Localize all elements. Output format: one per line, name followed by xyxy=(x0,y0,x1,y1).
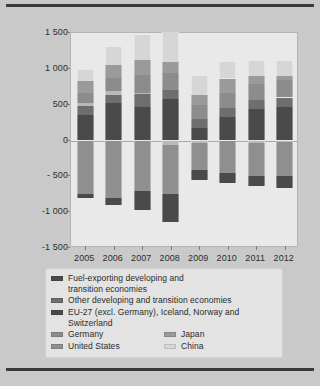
bar-column xyxy=(162,33,179,246)
x-axis-tick-label: 2006 xyxy=(103,253,123,263)
bar-segment xyxy=(134,35,151,60)
bar-segment xyxy=(191,128,208,141)
bar-segment xyxy=(105,198,122,205)
bar-segment xyxy=(162,145,179,194)
bar-segment xyxy=(248,61,265,75)
bar-segment xyxy=(276,107,293,141)
y-axis-tick-label: 1 000 xyxy=(12,63,68,73)
bar-segment xyxy=(134,107,151,141)
bar-segment xyxy=(162,73,179,89)
bar-segment xyxy=(105,78,122,91)
x-axis-tick-label: 2009 xyxy=(188,253,208,263)
x-axis-tick-label: 2005 xyxy=(74,253,94,263)
legend-label-line1: EU-27 (excl. Germany), Iceland, Norway a… xyxy=(68,307,239,317)
bar-segment xyxy=(162,62,179,73)
bar-segment xyxy=(248,109,265,141)
bar-segment xyxy=(105,47,122,65)
legend-item-united-states: United States xyxy=(51,341,164,352)
chart-plot-wrapper: 1 5001 0005000- 500-1 000-1 500 20052006… xyxy=(12,14,308,264)
bar-column xyxy=(276,33,293,246)
x-axis-tick-label: 2012 xyxy=(274,253,294,263)
bar-segment xyxy=(162,194,179,222)
bar-segment xyxy=(219,79,236,94)
y-axis-tick-label: 0 xyxy=(12,135,68,145)
x-axis-tick-label: 2011 xyxy=(245,253,265,263)
x-axis-tick-mark xyxy=(142,246,143,250)
legend-item-other-developing: Other developing and transition economie… xyxy=(51,295,277,306)
bar-segment xyxy=(134,75,151,93)
x-axis-tick-mark xyxy=(85,246,86,250)
legend-label-germany: Germany xyxy=(68,329,103,340)
bar-segment xyxy=(77,70,94,81)
legend-label-line1: Fuel-exporting developing and xyxy=(68,273,184,283)
x-axis-tick-label: 2008 xyxy=(160,253,180,263)
x-axis-tick-label: 2007 xyxy=(131,253,151,263)
legend-swatch-united-states xyxy=(51,344,63,349)
bar-segment xyxy=(191,95,208,105)
x-axis-tick-mark xyxy=(199,246,200,250)
x-axis-tick-mark xyxy=(256,246,257,250)
bar-column xyxy=(77,33,94,246)
bar-segment xyxy=(77,115,94,140)
bar-segment xyxy=(134,94,151,107)
bar-segment xyxy=(276,98,293,107)
y-axis-tick-label: 1 500 xyxy=(12,27,68,37)
legend-row-germany-japan: Germany Japan xyxy=(51,329,277,340)
bar-segment xyxy=(162,32,179,61)
bar-segment xyxy=(219,62,236,78)
bar-segment xyxy=(219,93,236,107)
bar-segment xyxy=(276,61,293,76)
bar-column xyxy=(219,33,236,246)
legend-label-china: China xyxy=(181,341,203,352)
bar-segment xyxy=(77,106,94,116)
bar-segment xyxy=(276,76,293,80)
bar-segment xyxy=(276,142,293,176)
bar-segment xyxy=(105,91,122,95)
bar-segment xyxy=(191,170,208,179)
bar-segment xyxy=(248,100,265,109)
bar-segment xyxy=(77,141,94,194)
bar-column xyxy=(248,33,265,246)
bar-segment xyxy=(134,93,151,94)
bar-segment xyxy=(219,173,236,183)
legend-item-japan: Japan xyxy=(164,329,277,340)
bar-segment xyxy=(219,141,236,173)
legend-item-fuel-exporting: Fuel-exporting developing and transition… xyxy=(51,273,277,294)
legend-label-line2: transition economies xyxy=(68,284,147,294)
top-rule xyxy=(6,4,314,7)
bar-column xyxy=(105,33,122,246)
legend-swatch-japan xyxy=(164,332,176,337)
bar-segment xyxy=(191,105,208,119)
bar-segment xyxy=(105,141,122,198)
bar-segment xyxy=(276,176,293,188)
legend-item-germany: Germany xyxy=(51,329,164,340)
bar-segment xyxy=(219,117,236,141)
figure-panel: 1 5001 0005000- 500-1 000-1 500 20052006… xyxy=(0,0,320,386)
chart-legend: Fuel-exporting developing and transition… xyxy=(45,268,283,358)
bar-segment xyxy=(248,76,265,85)
bar-column xyxy=(191,33,208,246)
legend-row-us-china: United States China xyxy=(51,341,277,352)
bar-segment xyxy=(248,176,265,186)
bar-segment xyxy=(191,119,208,128)
x-axis-tick-mark xyxy=(171,246,172,250)
bar-segment xyxy=(219,108,236,117)
plot-area xyxy=(70,32,298,247)
bar-segment xyxy=(276,80,293,97)
bar-segment xyxy=(77,103,94,106)
legend-swatch-other-developing xyxy=(51,298,63,303)
bar-segment xyxy=(191,76,208,95)
y-axis-tick-label: - 500 xyxy=(12,170,68,180)
bar-segment xyxy=(77,93,94,103)
y-axis-tick-mark xyxy=(66,247,70,248)
x-axis-tick-label: 2010 xyxy=(217,253,237,263)
legend-item-china: China xyxy=(164,341,277,352)
y-axis-tick-label: -1 000 xyxy=(12,206,68,216)
bar-segment xyxy=(134,141,151,192)
y-axis-tick-label: -1 500 xyxy=(12,242,68,252)
x-axis-tick-mark xyxy=(228,246,229,250)
bar-segment xyxy=(134,191,151,209)
legend-label-japan: Japan xyxy=(181,329,204,340)
legend-swatch-china xyxy=(164,344,176,349)
legend-swatch-fuel-exporting xyxy=(51,276,63,281)
